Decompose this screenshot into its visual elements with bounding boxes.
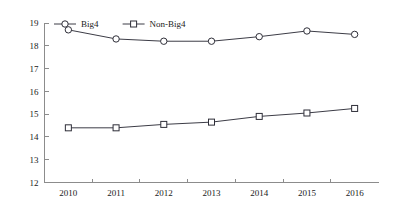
legend-item-non-big4[interactable]: Non-Big4 [123, 19, 187, 29]
x-tick-label: 2010 [59, 188, 78, 198]
y-tick-label: 16 [30, 87, 40, 97]
axes-group [45, 23, 379, 183]
data-point-marker-square [304, 110, 310, 116]
legend-marker-circle [62, 21, 68, 27]
data-point-marker-square [113, 125, 119, 131]
data-point-marker-circle [208, 38, 214, 44]
x-axis-ticks: 2010201120122013201420152016 [59, 179, 364, 198]
data-point-marker-circle [351, 31, 357, 37]
x-tick-label: 2016 [346, 188, 365, 198]
y-tick-label: 14 [30, 132, 40, 142]
x-tick-label: 2012 [155, 188, 173, 198]
data-point-marker-square [161, 121, 167, 127]
data-point-marker-circle [256, 33, 262, 39]
data-point-marker-circle [304, 28, 310, 34]
series-non-big4 [65, 105, 357, 130]
data-point-marker-square [209, 119, 215, 125]
y-tick-label: 13 [30, 155, 40, 165]
data-series-group [65, 27, 358, 131]
y-tick-label: 18 [30, 41, 40, 51]
data-point-marker-circle [65, 27, 71, 33]
y-tick-label: 17 [30, 64, 40, 74]
legend-label: Big4 [81, 19, 99, 29]
chart-legend: Big4Non-Big4 [54, 19, 186, 29]
data-point-marker-square [352, 105, 358, 111]
x-tick-label: 2013 [203, 188, 222, 198]
legend-marker-square [131, 21, 137, 27]
data-point-marker-square [256, 113, 262, 119]
chart-canvas: 1213141516171819 20102011201220132014201… [0, 0, 395, 214]
x-tick-label: 2014 [250, 188, 269, 198]
y-tick-label: 15 [30, 109, 40, 119]
series-big4 [65, 27, 358, 45]
x-tick-label: 2015 [298, 188, 317, 198]
legend-item-big4[interactable]: Big4 [54, 19, 99, 29]
y-axis-ticks: 1213141516171819 [30, 18, 49, 188]
data-point-marker-circle [113, 36, 119, 42]
line-chart: 1213141516171819 20102011201220132014201… [0, 0, 395, 214]
x-tick-label: 2011 [107, 188, 125, 198]
data-point-marker-square [65, 125, 71, 131]
data-point-marker-circle [161, 38, 167, 44]
y-tick-label: 12 [30, 178, 39, 188]
y-tick-label: 19 [30, 18, 40, 28]
legend-label: Non-Big4 [150, 19, 187, 29]
